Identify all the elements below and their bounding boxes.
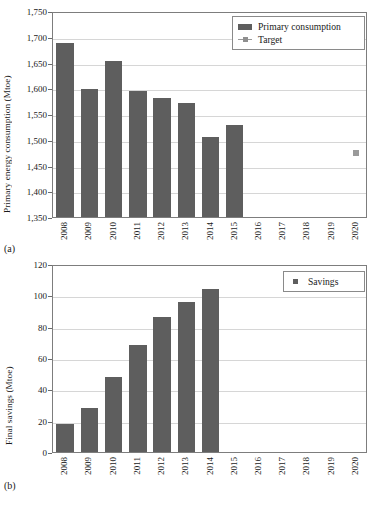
panel-label-a: (a) [4, 243, 15, 254]
y-axis-label-a: Primary energy consumption (Mtoe) [2, 18, 12, 213]
bar [153, 98, 170, 217]
y-tick-mark [48, 89, 52, 90]
y-tick-label: 1,500 [27, 136, 47, 146]
legend-item-target: Target [238, 33, 358, 46]
x-tick-label: 2015 [229, 222, 239, 240]
x-tick-label: 2014 [205, 457, 215, 475]
y-tick-mark [48, 265, 52, 266]
chart-panel-primary-consumption: Primary energy consumption (Mtoe) 1,3501… [0, 0, 373, 255]
bar [105, 377, 122, 452]
x-tick-label: 2016 [253, 457, 263, 475]
y-tick-mark [48, 115, 52, 116]
legend-b: Savings [283, 271, 365, 292]
y-tick-label: 20 [38, 417, 47, 427]
y-tick-mark [48, 192, 52, 193]
y-tick-mark [48, 64, 52, 65]
chart-panel-final-savings: Final savings (Mtoe) 020406080100120 200… [0, 255, 373, 509]
y-tick-label: 100 [34, 291, 48, 301]
x-tick-label: 2009 [83, 457, 93, 475]
bar [129, 91, 146, 217]
x-tick-label: 2013 [180, 222, 190, 240]
x-tick-label: 2020 [350, 457, 360, 475]
legend-swatch-bar-icon [238, 24, 252, 30]
y-axis-label-b: Final savings (Mtoe) [4, 285, 14, 445]
y-tick-label: 1,450 [27, 162, 47, 172]
y-tick-label: 1,550 [27, 110, 47, 120]
x-tick-label: 2017 [277, 457, 287, 475]
bar [56, 43, 73, 217]
legend-swatch-line-marker-icon [238, 37, 252, 43]
bar [226, 125, 243, 217]
y-tick-label: 1,600 [27, 84, 47, 94]
bar [81, 408, 98, 452]
bar [202, 137, 219, 217]
y-tick-label: 1,350 [27, 213, 47, 223]
x-tick-label: 2017 [277, 222, 287, 240]
x-tick-label: 2013 [180, 457, 190, 475]
figure-root: Primary energy consumption (Mtoe) 1,3501… [0, 0, 373, 509]
bar [153, 317, 170, 452]
x-tick-label: 2012 [156, 457, 166, 475]
y-tick-mark [48, 218, 52, 219]
legend-swatch-square-icon [293, 279, 298, 284]
bar [178, 302, 195, 452]
bar [129, 345, 146, 452]
bar [178, 103, 195, 217]
plot-area-b [52, 265, 367, 453]
bar [202, 289, 219, 452]
y-tick-label: 1,700 [27, 33, 47, 43]
x-tick-label: 2010 [108, 222, 118, 240]
x-tick-label: 2018 [301, 457, 311, 475]
y-tick-label: 80 [38, 323, 47, 333]
legend-label-savings: Savings [308, 275, 338, 288]
y-tick-mark [48, 141, 52, 142]
bar [105, 61, 122, 217]
x-tick-label: 2012 [156, 222, 166, 240]
y-tick-label: 1,750 [27, 7, 47, 17]
bar [81, 89, 98, 217]
x-tick-label: 2016 [253, 222, 263, 240]
bar-series-savings [53, 266, 366, 452]
x-tick-label: 2019 [326, 222, 336, 240]
x-tick-label: 2009 [83, 222, 93, 240]
x-tick-label: 2015 [229, 457, 239, 475]
y-tick-mark [48, 167, 52, 168]
panel-label-b: (b) [4, 480, 16, 491]
y-tick-mark [48, 12, 52, 13]
x-tick-label: 2014 [205, 222, 215, 240]
bar [56, 424, 73, 452]
x-tick-label: 2011 [132, 222, 142, 240]
legend-item-savings: Savings [289, 275, 358, 288]
x-tick-label: 2018 [301, 222, 311, 240]
y-tick-label: 40 [38, 385, 47, 395]
y-tick-label: 120 [34, 260, 48, 270]
y-tick-label: 1,650 [27, 59, 47, 69]
y-tick-mark [48, 390, 52, 391]
x-tick-label: 2008 [59, 457, 69, 475]
y-tick-label: 60 [38, 354, 47, 364]
x-tick-label: 2010 [108, 457, 118, 475]
x-tick-label: 2020 [350, 222, 360, 240]
target-marker [353, 150, 359, 156]
legend-label-target: Target [258, 33, 282, 46]
y-tick-label: 1,400 [27, 187, 47, 197]
y-tick-label: 0 [43, 448, 48, 458]
x-tick-label: 2008 [59, 222, 69, 240]
y-tick-mark [48, 359, 52, 360]
y-tick-mark [48, 453, 52, 454]
x-tick-label: 2019 [326, 457, 336, 475]
y-tick-mark [48, 328, 52, 329]
legend-item-primary-consumption: Primary consumption [238, 20, 358, 33]
y-tick-mark [48, 296, 52, 297]
x-tick-label: 2011 [132, 457, 142, 475]
legend-label-primary-consumption: Primary consumption [258, 20, 341, 33]
y-tick-mark [48, 38, 52, 39]
legend-a: Primary consumption Target [232, 16, 365, 50]
y-tick-mark [48, 422, 52, 423]
